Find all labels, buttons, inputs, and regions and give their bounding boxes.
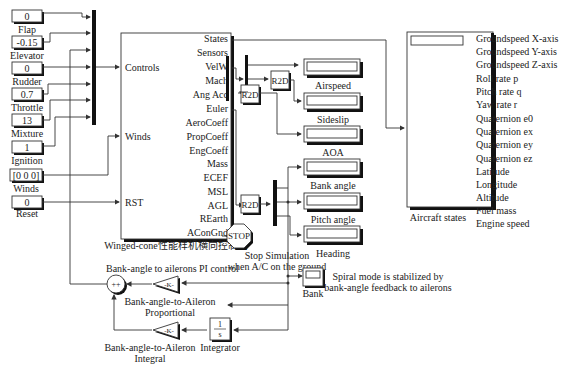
constant-elevator[interactable]: -0.15 Elevator — [10, 36, 45, 61]
proportional-label-1: Bank-angle-to-Aileron — [124, 296, 215, 307]
integral-label-1: Bank-angle-to-Aileron — [104, 342, 195, 353]
constant-reset[interactable]: 0 Reset — [12, 196, 44, 219]
svg-text:Pitch rate q: Pitch rate q — [476, 86, 522, 97]
svg-text:Elevator: Elevator — [10, 50, 45, 61]
svg-text:R2D: R2D — [241, 90, 259, 100]
svg-text:1: 1 — [25, 142, 30, 153]
svg-text:AGL: AGL — [207, 200, 228, 211]
svg-text:Mach: Mach — [205, 75, 228, 86]
spiral-note-1: Spiral mode is stabilized by — [332, 271, 443, 282]
integral-gain-block[interactable]: -K- — [153, 322, 180, 340]
integral-label-2: Integral — [134, 353, 165, 364]
svg-text:[0 0 0]: [0 0 0] — [13, 170, 40, 181]
svg-text:ECEF: ECEF — [204, 172, 229, 183]
mux-input-wires — [42, 13, 119, 250]
display-bank-angle[interactable]: Bank angle — [304, 159, 363, 191]
integrator-block[interactable]: 1 s — [210, 318, 232, 342]
subsystem-title: Winged-cone性能样机横向控制器 — [104, 239, 247, 251]
bank-scope-label: Bank — [302, 288, 323, 299]
svg-text:Mass: Mass — [207, 158, 228, 169]
constant-winds[interactable]: [0 0 0] Winds — [10, 169, 44, 194]
aircraft-states-label: Aircraft states — [410, 212, 466, 223]
svg-text:Euler: Euler — [206, 103, 228, 114]
svg-text:Pitch angle: Pitch angle — [311, 214, 356, 225]
svg-text:Latitude: Latitude — [476, 166, 510, 177]
constant-rudder[interactable]: 0 Rudder — [12, 62, 44, 87]
svg-text:Quaternion e0: Quaternion e0 — [476, 113, 533, 124]
svg-text:s: s — [218, 330, 221, 339]
display-heading[interactable]: Heading — [304, 226, 363, 259]
svg-text:Ang Acc: Ang Acc — [193, 89, 229, 100]
svg-text:REarth: REarth — [200, 213, 228, 224]
display-aoa[interactable]: AOA — [304, 126, 363, 158]
svg-text:Heading: Heading — [316, 248, 350, 259]
aircraft-state-signals: Groundspeed X-axis Groundspeed Y-axis Gr… — [476, 33, 559, 229]
svg-text:PropCoeff: PropCoeff — [187, 131, 229, 142]
svg-text:Mixture: Mixture — [11, 128, 44, 139]
velocity-demux[interactable] — [226, 56, 229, 101]
svg-text:Winds: Winds — [13, 183, 39, 194]
svg-text:Winds: Winds — [125, 131, 151, 142]
svg-text:Engine speed: Engine speed — [476, 218, 530, 229]
proportional-gain-block[interactable]: -K- — [153, 276, 180, 294]
svg-text:++: ++ — [111, 280, 121, 289]
svg-text:Groundspeed Z-axis: Groundspeed Z-axis — [476, 59, 557, 70]
svg-text:0: 0 — [25, 11, 30, 22]
svg-text:Controls: Controls — [125, 62, 160, 73]
svg-text:EngCoeff: EngCoeff — [189, 145, 228, 156]
svg-text:-K-: -K- — [164, 281, 174, 289]
constant-mixture[interactable]: 13 Mixture — [11, 114, 44, 139]
constant-throttle[interactable]: 0.7 Throttle — [11, 88, 44, 113]
spiral-note-2: bank-angle feedback to ailerons — [324, 282, 452, 293]
svg-text:Altitude: Altitude — [476, 192, 509, 203]
svg-text:Sideslip: Sideslip — [317, 114, 349, 125]
svg-text:Longitude: Longitude — [476, 179, 518, 190]
display-pitch-angle[interactable]: Pitch angle — [304, 193, 363, 225]
integrator-label: Integrator — [200, 342, 240, 353]
bank-scope[interactable] — [303, 268, 325, 288]
svg-text:Quaternion ex: Quaternion ex — [476, 126, 533, 137]
display-airspeed[interactable]: Airspeed — [304, 59, 363, 91]
svg-text:Groundspeed X-axis: Groundspeed X-axis — [476, 33, 559, 44]
svg-text:Quaternion ey: Quaternion ey — [476, 139, 533, 150]
svg-text:1: 1 — [218, 320, 222, 329]
svg-text:AConGnd: AConGnd — [187, 227, 228, 238]
svg-text:AeroCoeff: AeroCoeff — [185, 117, 228, 128]
simulink-diagram-canvas: 0 Flap -0.15 Elevator 0 Rudder 0.7 Throt… — [0, 0, 563, 370]
svg-text:Yaw rate r: Yaw rate r — [476, 99, 518, 110]
svg-text:0: 0 — [25, 63, 30, 74]
proportional-label-2: Proportional — [145, 307, 195, 318]
svg-text:Flap: Flap — [18, 24, 36, 35]
svg-text:Quaternion ez: Quaternion ez — [476, 153, 533, 164]
svg-text:Airspeed: Airspeed — [315, 80, 351, 91]
constant-flap[interactable]: 0 Flap — [12, 10, 44, 35]
display-sideslip[interactable]: Sideslip — [304, 93, 363, 125]
sum-block[interactable]: ++ — [107, 275, 127, 295]
svg-text:-0.15: -0.15 — [17, 37, 38, 48]
svg-text:R2D: R2D — [241, 200, 259, 210]
svg-text:States: States — [204, 33, 228, 44]
svg-text:Ignition: Ignition — [11, 155, 43, 166]
svg-text:R2D: R2D — [271, 76, 289, 86]
svg-text:13: 13 — [22, 115, 32, 126]
svg-text:Fuel mass: Fuel mass — [476, 205, 516, 216]
winged-cone-subsystem[interactable]: Controls Winds RST States Sensors VelW M… — [121, 33, 234, 242]
svg-text:Reset: Reset — [16, 208, 38, 219]
svg-text:0: 0 — [25, 197, 30, 208]
svg-text:0.7: 0.7 — [21, 89, 34, 100]
r2d-block-2[interactable]: R2D — [241, 85, 261, 105]
svg-text:VelW: VelW — [205, 61, 228, 72]
stop-caption-1: Stop Simulation — [245, 250, 310, 261]
r2d-block-3[interactable]: R2D — [241, 195, 261, 215]
controls-mux[interactable] — [92, 10, 96, 125]
svg-text:-K-: -K- — [164, 327, 174, 335]
svg-text:AOA: AOA — [322, 147, 344, 158]
r2d-block-1[interactable]: R2D — [271, 71, 291, 91]
pi-control-title: Bank-angle to ailerons PI control — [106, 263, 239, 274]
constant-ignition[interactable]: 1 Ignition — [11, 141, 44, 166]
svg-text:Groundspeed Y-axis: Groundspeed Y-axis — [476, 46, 557, 57]
euler-demux-bar[interactable] — [273, 180, 277, 226]
svg-text:Sensors: Sensors — [197, 47, 228, 58]
svg-text:Throttle: Throttle — [11, 102, 44, 113]
svg-text:STOP: STOP — [228, 231, 250, 241]
